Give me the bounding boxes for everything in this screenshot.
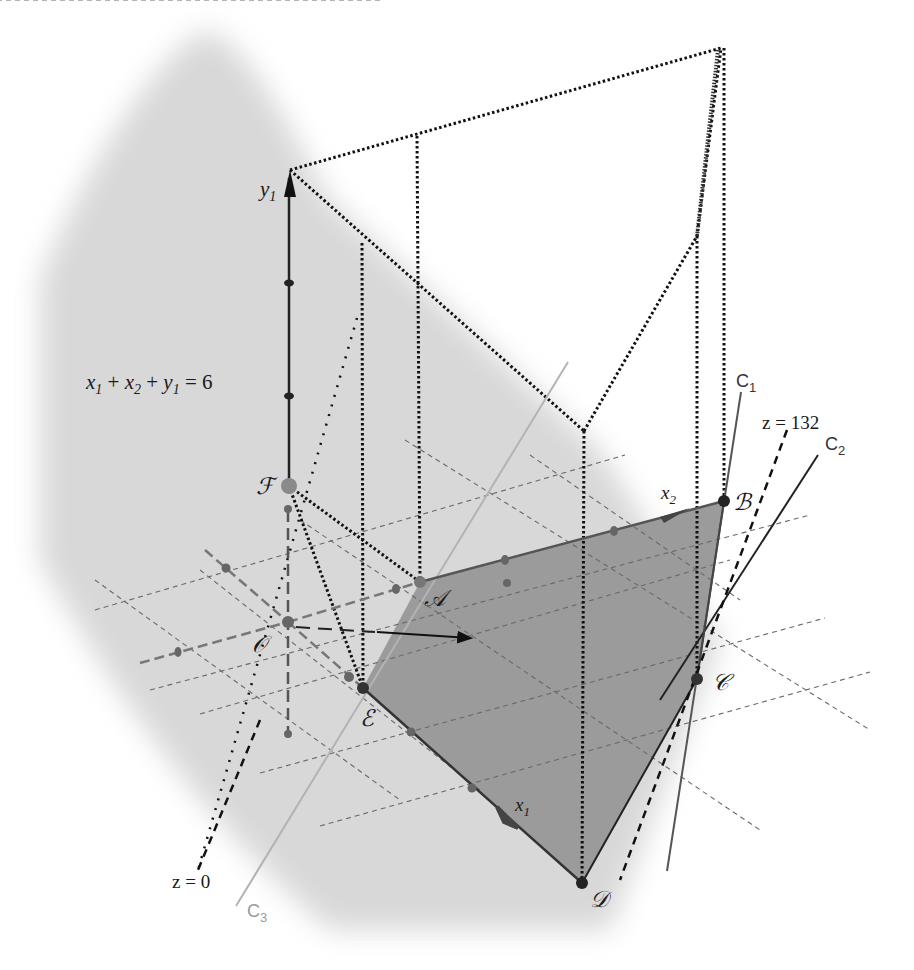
constraint-label-c1: C1 [736,371,756,395]
vertex-label-e: ℰ [360,705,376,731]
x2-axis-label: x2 [660,482,676,507]
objective-level-label-z0: z = 0 [172,871,210,892]
point-c [691,673,703,685]
constraint-label-c2: C2 [825,434,845,458]
point-f [281,478,297,494]
constraint-label-c3: C3 [247,901,267,925]
plane-equation-label: x1 + x2 + y1 = 6 [85,370,213,397]
point-d [576,877,588,889]
point-e [357,682,369,694]
point-b [718,495,730,507]
projection-edge-double [697,50,718,236]
vertex-label-c: 𝒞 [712,669,735,695]
point-o [282,616,294,628]
objective-level-label-z132: z = 132 [762,412,819,433]
vertex-label-b: ℬ [733,489,753,515]
lp-3d-diagram: x1 + x2 + y1 = 6 y1 x2 x1 𝒜 ℬ 𝒞 𝒟 ℰ ℱ 𝒪 … [0,0,914,970]
